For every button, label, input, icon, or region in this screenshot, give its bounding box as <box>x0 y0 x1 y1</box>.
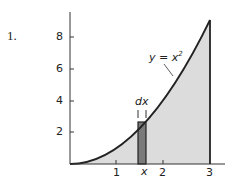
y-tick-4: 4 <box>56 94 63 107</box>
y-tick-2: 2 <box>56 125 63 138</box>
y-tick-8: 8 <box>56 30 63 43</box>
x-marker-label: x <box>141 165 148 178</box>
dx-label: dx <box>135 95 149 108</box>
x-tick-1: 1 <box>113 166 120 178</box>
x-tick-3: 3 <box>206 166 213 178</box>
x-tick-2: 2 <box>159 166 166 178</box>
integral-diagram <box>0 0 230 178</box>
function-label-exponent: 2 <box>178 50 182 58</box>
function-label: y = x2 <box>149 50 183 64</box>
y-tick-6: 6 <box>56 62 63 75</box>
function-label-base: y = x <box>149 51 178 64</box>
